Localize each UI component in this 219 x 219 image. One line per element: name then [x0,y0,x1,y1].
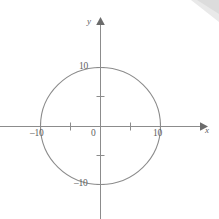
y-axis-label-pos10: 10 [79,62,88,72]
y-axis-name-label: y [87,17,91,26]
x-axis-name-label: x [205,126,209,135]
y-axis-arrowhead [96,17,105,25]
y-axis-label-neg10: –10 [74,179,88,189]
coordinate-plane-figure [0,0,219,219]
x-axis-label-pos10: 10 [153,129,162,139]
graph-screenshot: –10 10 0 10 –10 x y [0,0,219,219]
origin-label: 0 [91,129,96,139]
x-axis-label-neg10: –10 [30,129,44,139]
